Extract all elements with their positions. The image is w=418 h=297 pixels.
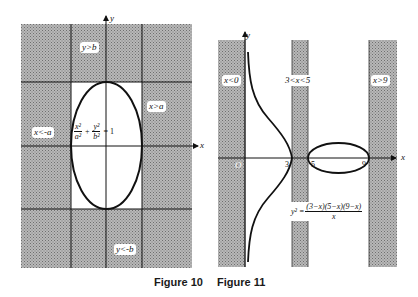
denominator: b² xyxy=(93,132,99,141)
x-axis-label: x xyxy=(198,140,206,151)
tick-3: 3 xyxy=(285,160,289,169)
figure-11-caption: Figure 11 xyxy=(217,276,265,288)
numerator: y² xyxy=(92,122,100,132)
region-label-x-gt-9: x>9 xyxy=(371,75,390,86)
fraction-x: x² a² xyxy=(74,122,82,141)
fraction-y: y² b² xyxy=(92,122,100,141)
figures-canvas xyxy=(0,0,418,297)
origin-label: O xyxy=(233,160,244,171)
figure-10 xyxy=(21,16,198,268)
ellipse-equation: x² a² + y² b² = 1 xyxy=(73,122,114,141)
plus-sign: + xyxy=(85,127,90,136)
region-label-3-5: 3<x<5 xyxy=(283,75,312,86)
tick-5: 5 xyxy=(311,160,315,169)
denominator: a² xyxy=(75,132,81,141)
tick-9: 9 xyxy=(362,160,366,169)
y-axis-label: y xyxy=(244,30,252,41)
equation-fraction: (3−x)(5−x)(9−x) x xyxy=(305,202,362,221)
figure-11 xyxy=(218,32,397,267)
region-label-x-lt-0: x<0 xyxy=(222,75,241,86)
equation-lhs: y² = xyxy=(291,207,304,216)
y-axis-label: y xyxy=(108,13,116,24)
region-label-top: y>b xyxy=(80,42,99,53)
x-axis-label: x xyxy=(399,152,407,163)
equals-one: = 1 xyxy=(103,127,114,136)
figure-10-caption: Figure 10 xyxy=(154,276,203,288)
region-label-bottom: y<-b xyxy=(114,244,136,255)
curve-equation: y² = (3−x)(5−x)(9−x) x xyxy=(291,202,363,221)
numerator: (3−x)(5−x)(9−x) xyxy=(305,202,362,212)
region-label-left: x<-a xyxy=(32,127,54,138)
region-label-right: x>a xyxy=(147,101,166,112)
denominator: x xyxy=(332,212,336,221)
numerator: x² xyxy=(74,122,82,132)
